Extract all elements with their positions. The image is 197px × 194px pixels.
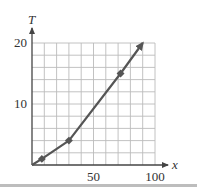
y-tick-label: 20 xyxy=(14,35,27,50)
y-tick-label: 10 xyxy=(14,96,27,111)
y-axis-label: T xyxy=(28,12,36,27)
x-tick-label: 50 xyxy=(87,169,100,184)
axes xyxy=(32,28,168,165)
divider xyxy=(0,184,197,187)
x-tick-label: 100 xyxy=(145,169,165,184)
x-axis-label: x xyxy=(171,157,178,172)
chart: 501001020 T x xyxy=(0,0,197,194)
grid-lines xyxy=(32,43,155,165)
